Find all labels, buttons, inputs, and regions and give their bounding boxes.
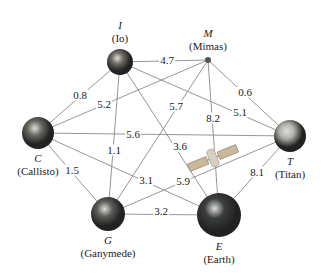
edge-weight-label: 3.1 [138, 175, 154, 186]
edge-weight-label: 0.6 [237, 87, 253, 98]
edge-weight-label: 8.1 [249, 167, 265, 178]
node-letter: M [189, 27, 227, 40]
node-io [107, 49, 133, 75]
edge-I-T [120, 62, 290, 136]
edge-weight-label: 0.8 [72, 90, 88, 101]
edge-M-T [208, 60, 290, 136]
edge-weight-label: 8.2 [205, 113, 221, 124]
node-name: (Io) [112, 32, 129, 44]
node-name: (Ganymede) [81, 247, 136, 259]
node-name: (Callisto) [17, 165, 59, 177]
edge-M-E [208, 60, 219, 215]
node-label: C(Callisto) [17, 152, 59, 178]
edge-C-T [38, 133, 290, 136]
node-letter: C [17, 152, 59, 165]
edge-I-G [108, 62, 120, 214]
node-titan [274, 120, 306, 152]
node-label: I(Io) [112, 19, 129, 45]
edge-weight-label: 5.9 [175, 176, 191, 187]
node-callisto [22, 117, 54, 149]
edge-weight-label: 5.7 [168, 101, 184, 112]
node-earth [197, 193, 241, 237]
node-ganymede [91, 197, 125, 231]
node-label: M(Mimas) [189, 27, 227, 53]
edge-weight-label: 4.7 [159, 55, 175, 66]
node-label: G(Ganymede) [81, 234, 136, 260]
node-mimas [205, 57, 211, 63]
node-label: E(Earth) [203, 240, 234, 266]
satellite-icon [186, 140, 241, 176]
node-name: (Mimas) [189, 40, 227, 52]
edge-weight-label: 3.2 [153, 206, 169, 217]
edge-weight-label: 5.1 [232, 107, 248, 118]
edge-weight-label: 1.5 [64, 165, 80, 176]
node-name: (Titan) [275, 168, 305, 180]
node-letter: G [81, 234, 136, 247]
edge-M-G [108, 60, 208, 214]
edge-weight-label: 5.2 [96, 99, 112, 110]
node-letter: E [203, 240, 234, 253]
edge-weight-label: 5.6 [125, 129, 141, 140]
node-name: (Earth) [203, 253, 234, 265]
edges-group [38, 60, 290, 215]
edge-weight-label: 3.6 [172, 141, 188, 152]
node-letter: T [275, 155, 305, 168]
node-label: T(Titan) [275, 155, 305, 181]
network-graph [0, 0, 326, 276]
node-letter: I [112, 19, 129, 32]
edge-weight-label: 1.1 [106, 145, 122, 156]
